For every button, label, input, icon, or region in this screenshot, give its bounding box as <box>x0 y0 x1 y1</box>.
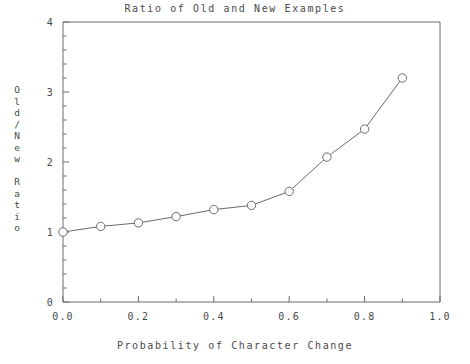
plot-area: 0.00.20.40.60.81.001234 <box>0 0 470 364</box>
x-tick-label: 1.0 <box>429 311 451 322</box>
y-tick-label: 0 <box>47 297 54 308</box>
data-series <box>59 74 407 236</box>
x-tick-label: 0.2 <box>128 311 150 322</box>
data-point-marker <box>323 153 331 161</box>
data-point-marker <box>285 187 293 195</box>
series-line <box>63 78 402 232</box>
data-point-marker <box>134 219 142 227</box>
chart-figure: Ratio of Old and New Examples Old/New.Ra… <box>0 0 470 364</box>
data-point-marker <box>398 74 406 82</box>
y-tick-label: 4 <box>47 17 54 28</box>
data-point-marker <box>172 212 180 220</box>
x-tick-label: 0.8 <box>354 311 376 322</box>
y-tick-label: 2 <box>47 157 54 168</box>
axes <box>63 22 440 302</box>
x-tick-label: 0.6 <box>278 311 300 322</box>
data-point-marker <box>247 201 255 209</box>
axis-ticks <box>63 22 440 302</box>
data-point-marker <box>210 205 218 213</box>
x-tick-label: 0.0 <box>52 311 74 322</box>
y-tick-label: 1 <box>47 227 54 238</box>
y-tick-label: 3 <box>47 87 54 98</box>
axis-tick-labels: 0.00.20.40.60.81.001234 <box>47 17 451 323</box>
data-point-marker <box>360 125 368 133</box>
data-point-marker <box>59 228 67 236</box>
x-tick-label: 0.4 <box>203 311 225 322</box>
data-point-marker <box>97 222 105 230</box>
